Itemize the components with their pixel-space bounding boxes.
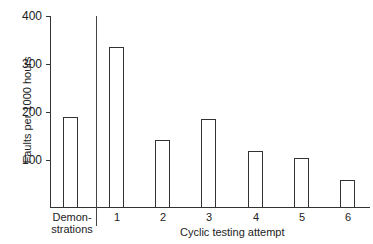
bar-attempt-6	[340, 180, 355, 207]
x-tick-label-4: 4	[236, 211, 276, 223]
x-tick-label-demonstrations-line1: Demon-	[50, 211, 94, 223]
bar-attempt-5	[294, 158, 309, 207]
x-tick-label-demonstrations-line2: strations	[50, 223, 94, 235]
y-tick-400	[46, 16, 51, 17]
x-tick-label-5: 5	[282, 211, 322, 223]
y-tick-100	[46, 160, 51, 161]
bar-attempt-3	[201, 119, 216, 207]
group-separator-line	[96, 16, 97, 226]
x-tick-label-2: 2	[143, 211, 183, 223]
y-tick-200	[46, 112, 51, 113]
y-tick-label-200: 200	[2, 106, 42, 118]
bar-attempt-4	[248, 151, 263, 207]
y-tick-label-300: 300	[2, 58, 42, 70]
bar-attempt-2	[155, 140, 170, 207]
x-axis	[50, 207, 370, 208]
bar-attempt-1	[109, 47, 124, 207]
y-tick-label-100: 100	[2, 154, 42, 166]
x-tick-label-1: 1	[97, 211, 137, 223]
bar-demonstrations	[63, 117, 78, 207]
x-tick-label-6: 6	[328, 211, 368, 223]
x-tick-label-3: 3	[189, 211, 229, 223]
y-tick-label-400: 400	[2, 10, 42, 22]
y-tick-300	[46, 64, 51, 65]
x-axis-label: Cyclic testing attempt	[180, 226, 285, 238]
